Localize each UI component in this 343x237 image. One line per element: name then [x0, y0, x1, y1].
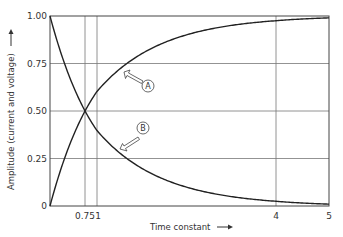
y-tick-label: 1.00	[27, 11, 47, 21]
y-tick-label: 0.50	[27, 106, 47, 116]
callout-a: A	[124, 70, 154, 92]
grid-lines	[50, 16, 329, 206]
arrow-a-icon	[124, 70, 143, 84]
x-tick-label: 1	[95, 211, 101, 221]
chart: 00.250.500.751.00 0.75145 A B Time const…	[0, 0, 343, 237]
y-tick-label: 0.75	[27, 59, 47, 69]
callout-a-label: A	[145, 82, 151, 91]
x-axis-ticks: 0.75145	[75, 211, 332, 221]
callout-b: B	[120, 122, 149, 151]
y-tick-label: 0.25	[27, 154, 47, 164]
callout-b-label: B	[140, 124, 146, 133]
y-axis-arrow-icon	[9, 29, 14, 46]
x-tick-label: 5	[326, 211, 332, 221]
x-axis-label: Time constant	[149, 222, 233, 232]
x-tick-label: 4	[273, 211, 279, 221]
series-a-line	[50, 18, 329, 206]
series-b-line	[50, 16, 329, 204]
arrow-b-icon	[120, 137, 140, 151]
x-tick-label: 0.75	[75, 211, 95, 221]
x-axis-arrow-icon	[217, 225, 233, 230]
y-axis-title: Amplitude (current and voltage)	[6, 53, 16, 190]
y-tick-label: 0	[41, 201, 47, 211]
y-axis-ticks: 00.250.500.751.00	[27, 11, 47, 211]
x-axis-title: Time constant	[149, 222, 211, 232]
y-axis-label: Amplitude (current and voltage)	[6, 29, 16, 190]
